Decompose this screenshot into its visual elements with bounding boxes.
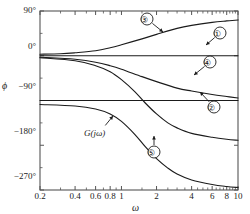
figure-bode-phase-plot: 90° 0° −90° −180° −270° ϕ 0.20.40.60.812… — [0, 0, 250, 214]
y-axis-label: ϕ — [2, 80, 7, 91]
curve-5 — [40, 58, 238, 141]
callout-label-3: ③ — [140, 15, 148, 25]
callout-label-5: ⑤ — [147, 148, 155, 158]
xtick-label-1: 1 — [109, 191, 133, 201]
callout-label-1: ① — [213, 29, 221, 39]
callout-arrowhead-5 — [152, 136, 156, 140]
ytick-label-minus270: −270° — [0, 171, 36, 181]
curve-3 — [40, 20, 238, 54]
callout-label-2: ② — [207, 103, 215, 113]
xtick-label-2: 2 — [145, 191, 169, 201]
callout-arrow-group — [105, 23, 214, 145]
ytick-label-90: 90° — [0, 5, 36, 15]
x-axis-label: ω — [132, 202, 139, 213]
ytick-label-0: 0° — [0, 41, 36, 51]
callout-label-4: ④ — [203, 58, 211, 68]
callout-label-g: G(jω) — [84, 128, 105, 138]
ytick-label-minus180: −180° — [0, 126, 36, 136]
curve-G(jw) — [40, 104, 238, 187]
xtick-label-10: 10 — [226, 191, 250, 201]
xtick-label-0p2: 0.2 — [28, 191, 52, 201]
